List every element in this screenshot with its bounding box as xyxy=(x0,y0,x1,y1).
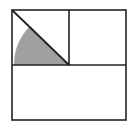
geometry-diagram xyxy=(0,0,138,135)
shaded-sector xyxy=(14,26,69,65)
